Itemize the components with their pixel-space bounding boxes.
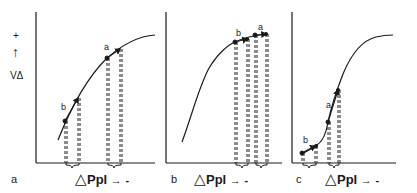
- panel-b-point-a-label: a: [258, 22, 263, 32]
- panel-c-brace-a: [329, 163, 339, 168]
- y-axis-label: ΔV: [10, 70, 23, 81]
- negative-sign: -: [375, 174, 379, 186]
- negative-sign: -: [244, 174, 248, 186]
- x-axis-label-text: Ppl: [337, 172, 357, 187]
- panel-a-letter: a: [11, 173, 17, 185]
- right-arrow-icon: →: [230, 174, 241, 186]
- panel-b-x-axis-label: △Ppl → -: [194, 170, 248, 188]
- x-axis-label-text: Ppl: [206, 172, 226, 187]
- panel-b-drop-lines: [235, 34, 268, 163]
- y-axis-up-arrow-icon: ↑: [12, 44, 19, 60]
- panel-c-point-a-label: a: [326, 100, 331, 110]
- panel-b-letter: b: [171, 173, 177, 185]
- panel-a-segment-b-arrow: [65, 98, 78, 121]
- delta-triangle-icon: △: [75, 170, 87, 187]
- panel-a: [36, 12, 155, 168]
- panel-a-brace-b: [66, 163, 79, 168]
- y-axis-plus-sign: +: [13, 30, 19, 41]
- delta-triangle-icon: △: [194, 170, 206, 187]
- right-arrow-icon: →: [361, 174, 372, 186]
- panel-b-point-b-label: b: [236, 28, 241, 38]
- right-arrow-icon: →: [111, 174, 122, 186]
- panel-b-brace-b: [236, 163, 248, 168]
- panel-b-brace-a: [256, 163, 267, 168]
- panel-c-point-b-label: b: [303, 135, 308, 145]
- pressure-volume-diagram: [0, 0, 417, 193]
- panel-c-x-axis-label: △Ppl → -: [325, 170, 379, 188]
- panel-c-letter: c: [296, 173, 302, 185]
- panel-a-point-a-label: a: [104, 42, 109, 52]
- panel-a-brace-a: [108, 163, 121, 168]
- panel-a-x-axis-label: △Ppl → -: [75, 170, 129, 188]
- x-axis-label-text: Ppl: [87, 172, 107, 187]
- panel-a-point-b-label: b: [61, 102, 66, 112]
- panel-c-compliance-curve: [302, 35, 393, 154]
- negative-sign: -: [125, 174, 129, 186]
- panel-c-brace-b: [303, 163, 316, 168]
- delta-triangle-icon: △: [325, 170, 337, 187]
- panel-b: [166, 12, 282, 168]
